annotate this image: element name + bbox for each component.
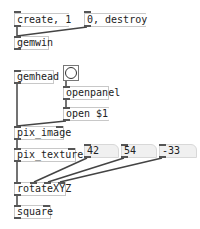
openpanel-label: openpanel [66, 87, 120, 98]
outlet[interactable] [63, 119, 70, 121]
gemhead-label: gemhead [17, 71, 59, 82]
inlet[interactable] [58, 182, 65, 184]
outlet[interactable] [14, 82, 21, 84]
inlet[interactable] [121, 144, 128, 146]
outlet[interactable] [14, 160, 21, 162]
inlet[interactable] [14, 182, 21, 184]
outlet[interactable] [14, 138, 21, 140]
inlet[interactable] [84, 11, 91, 13]
number-x-value: 42 [87, 145, 99, 156]
square-label: square [17, 206, 53, 217]
inlet[interactable] [14, 148, 21, 150]
outlet[interactable] [63, 98, 70, 100]
outlet[interactable] [14, 48, 21, 50]
create-message-label: create, 1 [17, 14, 71, 25]
gemwin-label: gemwin [17, 37, 53, 48]
outlet[interactable] [84, 25, 91, 27]
inlet[interactable] [14, 70, 21, 72]
rotatexyz-label: rotateXYZ [17, 183, 71, 194]
inlet[interactable] [30, 182, 37, 184]
inlet[interactable] [68, 148, 75, 150]
outlet[interactable] [159, 156, 166, 158]
pix-texture-object[interactable]: pix_texture [14, 148, 76, 162]
number-y-value: 54 [124, 145, 136, 156]
rotatexyz-object[interactable]: rotateXYZ [14, 182, 66, 196]
inlet[interactable] [14, 126, 21, 128]
outlet[interactable] [14, 217, 21, 219]
outlet[interactable] [84, 156, 91, 158]
inlet[interactable] [14, 11, 21, 13]
inlet[interactable] [84, 144, 91, 146]
inlet[interactable] [159, 144, 166, 146]
open-message-label: open $1 [66, 108, 108, 119]
create-message[interactable]: create, 1 [14, 13, 65, 27]
pix-image-object[interactable]: pix_image [14, 126, 64, 140]
inlet[interactable] [43, 205, 50, 207]
outlet[interactable] [14, 25, 21, 27]
pix-texture-label: pix_texture [17, 149, 83, 160]
inlet[interactable] [56, 126, 63, 128]
outlet[interactable] [14, 194, 21, 196]
pix-image-label: pix_image [17, 127, 71, 138]
inlet[interactable] [63, 107, 70, 109]
bang-circle-icon [65, 67, 77, 79]
destroy-message-label: 0, destroy [87, 14, 147, 25]
inlet[interactable] [44, 182, 51, 184]
number-z-value: -33 [162, 145, 180, 156]
bang-button[interactable] [63, 65, 79, 81]
inlet[interactable] [14, 36, 21, 38]
inlet[interactable] [63, 86, 70, 88]
outlet[interactable] [121, 156, 128, 158]
inlet[interactable] [14, 205, 21, 207]
destroy-message[interactable]: 0, destroy [84, 13, 142, 27]
